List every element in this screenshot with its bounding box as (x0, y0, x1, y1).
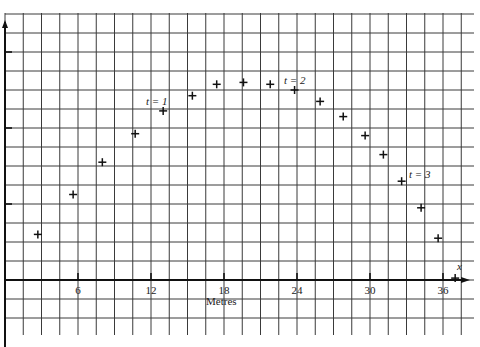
plus-marker-icon (34, 230, 42, 238)
plus-marker-icon (398, 177, 406, 185)
trajectory-chart: 61218243036 x Metres t = 1 t = 2 t = 3 (0, 0, 480, 347)
x-axis-arrow-icon (461, 277, 470, 283)
x-axis-symbol: x (456, 260, 462, 272)
plus-marker-icon (417, 204, 425, 212)
plus-marker-icon (379, 151, 387, 159)
plus-marker-icon (434, 234, 442, 242)
annotation-t3: t = 3 (409, 168, 431, 180)
x-tick-label: 36 (438, 284, 450, 296)
plus-marker-icon (266, 80, 274, 88)
plus-marker-icon (316, 97, 324, 105)
plus-marker-icon (213, 80, 221, 88)
plus-marker-icon (188, 92, 196, 100)
plus-marker-icon (239, 78, 247, 86)
plus-marker-icon (159, 107, 167, 115)
annotation-t2: t = 2 (284, 74, 306, 86)
plus-marker-icon (98, 158, 106, 166)
x-tick-label: 30 (365, 284, 377, 296)
x-axis-ticks: 61218243036 (75, 273, 449, 296)
y-axis-arrow-icon (2, 20, 8, 28)
plus-marker-icon (361, 132, 369, 140)
x-axis-label: Metres (206, 295, 237, 307)
plus-marker-icon (339, 113, 347, 121)
annotation-t1: t = 1 (146, 95, 167, 107)
x-tick-label: 6 (75, 284, 81, 296)
x-tick-label: 12 (146, 284, 157, 296)
y-axis-ticks (5, 52, 12, 204)
plus-marker-icon (69, 191, 77, 199)
x-tick-label: 24 (292, 284, 304, 296)
